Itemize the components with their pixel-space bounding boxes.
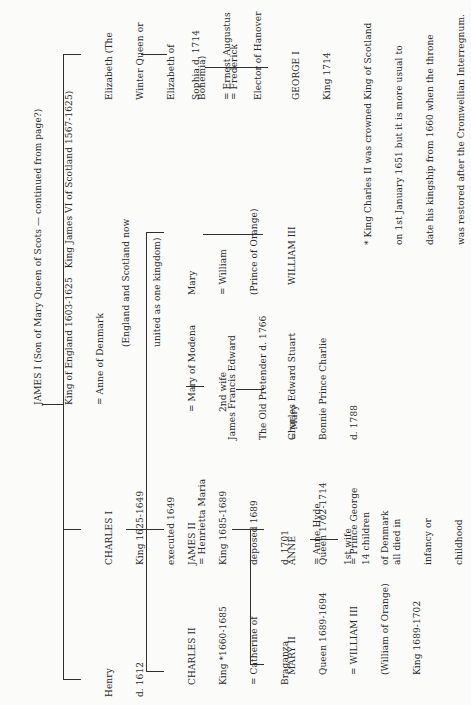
mary-ii-reign: Queen 1689-1694 [318,583,328,675]
mary-node: Mary = William (Prince of Orange) [166,208,280,295]
charles-ii-reign: King *1660-1685 [218,606,228,685]
henry-name: Henry [104,662,114,697]
gen2-sibling-bar [146,232,147,672]
henry-node: Henry d. 1612 [83,662,166,697]
anne-children-node: 14 children all died in infancy or child… [340,512,471,565]
modena-children-line [186,386,204,387]
james-ii-children-line [232,529,250,530]
sophia-name: Sophia d. 1714 [191,11,201,100]
mary-ii-node: MARY II Queen 1689-1694 = WILLIAM III (W… [266,583,443,675]
footnote-line-1: * King Charles II was crowned King of Sc… [363,14,373,245]
footnote: * King Charles II was crowned King of Sc… [342,14,471,245]
charles-i-drop-line [63,529,81,530]
footnote-line-3: date his kingship from 1660 when the thr… [425,14,435,245]
mary-name: Mary [187,208,197,295]
elizabeth-line-2: Winter Queen or [135,22,145,100]
mary-spouse-title: (Prince of Orange) [249,208,259,295]
ces-name: Charles Edward Stuart [287,333,297,440]
james-i-line-1: JAMES I (Son of Mary Queen of Scots — co… [33,91,43,405]
george-i-reign: King 1714 [322,51,332,100]
mary-ii-spouse-reign: King 1689-1702 [412,583,422,675]
ces-nickname: Bonnie Prince Charlie [318,333,328,440]
george-i-node: GEORGE I King 1714 [270,51,353,100]
elizabeth-line-1: Elizabeth (The [104,22,114,100]
anne-reign: Queen 1702-1714 [318,482,328,565]
mary-ii-spouse: = WILLIAM III [349,583,359,675]
henry-drop-line [63,679,81,680]
anne-children-line [310,539,338,540]
mary-ii-spouse-title: (William of Orange) [380,583,390,675]
anne-children-line-2: all died in [392,512,402,565]
charles-i-children-line [126,529,164,530]
jfe-children-line [236,389,264,390]
sophia-spouse-title: Elector of Hanover [253,11,263,100]
mary-of-modena-name: = Mary of Modena [187,325,197,412]
anne-children-line-1: 14 children [361,512,371,565]
anne-name: ANNE [287,482,297,565]
charles-ii-drop-line [146,671,164,672]
mary-drop-line [146,232,164,233]
gen3-sibling-bar [250,529,251,665]
anne-children-line-3: infancy or [423,512,433,565]
anne-drop-line [250,529,264,530]
george-i-name: GEORGE I [291,51,301,100]
william-iii-node: WILLIAM III [266,226,318,285]
gen1-sibling-bar [63,54,64,680]
mary-ii-name: MARY II [287,583,297,675]
mary-spouse: = William [218,208,228,295]
sophia-node: Sophia d. 1714 = Ernest Augustus Elector… [170,11,284,100]
ces-death: d. 1788 [349,333,359,440]
charles-ii-name: CHARLES II [187,606,197,685]
mary-children-line [203,234,263,235]
elizabeth-children-line [141,54,167,55]
mary-ii-drop-line [250,664,264,665]
union-note-line-1: (England and Scotland now [121,219,131,347]
charles-edward-stuart-node: Charles Edward Stuart Bonnie Prince Char… [266,333,380,440]
union-note-line-2: united as one kingdom) [152,219,162,347]
sophia-spouse: = Ernest Augustus [222,11,232,100]
james-i-line-2: King of England 1603-1625 King James VI … [64,91,74,405]
henry-death: d. 1612 [135,662,145,697]
anne-children-line-4: childhood [454,512,464,565]
james-ii-name: JAMES II [187,491,197,565]
james-ii-reign: King 1685-1689 [218,491,228,565]
james-i-descent-line [42,404,63,405]
william-iii-name: WILLIAM III [287,226,297,285]
jfe-name: James Francis Edward [227,316,237,440]
sophia-children-line [205,67,268,68]
footnote-line-4: was restored after the Cromwellian Inter… [456,14,466,245]
charles-i-name: CHARLES I [104,479,114,565]
elizabeth-drop-line [63,54,81,55]
charles-i-reign: King 1625-1649 [135,479,145,565]
footnote-line-2: on 1st January 1651 but it is more usual… [394,14,404,245]
